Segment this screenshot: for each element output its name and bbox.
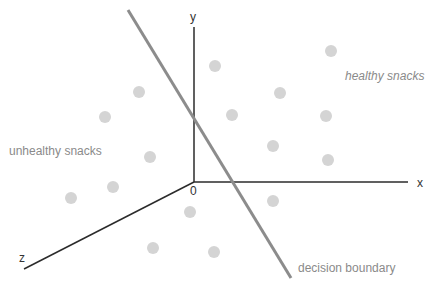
healthy-snack-point bbox=[274, 87, 286, 99]
healthy-snack-point bbox=[320, 110, 332, 122]
unhealthy-snack-point bbox=[147, 242, 159, 254]
healthy-snack-point bbox=[209, 60, 221, 72]
healthy-snack-point bbox=[322, 154, 334, 166]
unhealthy-snack-point bbox=[208, 246, 220, 258]
decision-boundary-line bbox=[128, 10, 291, 278]
decision-boundary-label: decision boundary bbox=[298, 262, 395, 274]
healthy-snacks-label: healthy snacks bbox=[345, 70, 424, 82]
z-axis-line bbox=[24, 182, 194, 269]
healthy-snack-point bbox=[267, 140, 279, 152]
unhealthy-snack-point bbox=[144, 151, 156, 163]
unhealthy-snack-point bbox=[65, 192, 77, 204]
z-axis-label: z bbox=[19, 252, 25, 264]
unhealthy-snack-point bbox=[184, 206, 196, 218]
healthy-snack-point bbox=[267, 195, 279, 207]
unhealthy-snack-point bbox=[99, 111, 111, 123]
x-axis-label: x bbox=[417, 177, 423, 189]
unhealthy-snack-point bbox=[133, 86, 145, 98]
unhealthy-snacks-label: unhealthy snacks bbox=[9, 145, 102, 157]
data-points bbox=[65, 45, 337, 258]
healthy-snack-point bbox=[325, 45, 337, 57]
healthy-snack-point bbox=[226, 109, 238, 121]
svm-diagram: y x z 0 unhealthy snacks healthy snacks … bbox=[0, 0, 434, 289]
origin-label: 0 bbox=[190, 185, 197, 197]
y-axis-label: y bbox=[190, 11, 196, 23]
unhealthy-snack-point bbox=[107, 181, 119, 193]
